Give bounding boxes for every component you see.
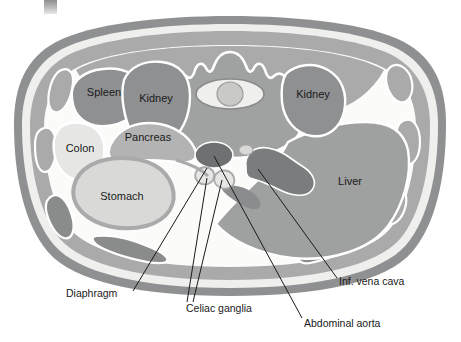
corner-artifact-mark	[44, 0, 57, 14]
figure-canvas: Spleen Kidney Colon Pancreas Stomach Kid…	[0, 0, 461, 342]
label-kidney-right: Kidney	[296, 88, 330, 100]
small-vessel-node	[239, 145, 253, 155]
label-celiac-ganglia: Celiac ganglia	[186, 302, 252, 314]
kidney-right-organ	[282, 65, 346, 136]
celiac-ganglion-right	[214, 171, 234, 189]
label-pancreas: Pancreas	[125, 131, 172, 143]
label-diaphragm: Diaphragm	[66, 287, 118, 299]
label-inf-vena-cava: Inf. vena cava	[339, 275, 405, 287]
spinal-cord	[217, 82, 243, 106]
label-liver: Liver	[338, 175, 362, 187]
abdominal-cross-section-diagram: Spleen Kidney Colon Pancreas Stomach Kid…	[0, 0, 461, 342]
label-spleen: Spleen	[87, 86, 121, 98]
label-stomach: Stomach	[100, 190, 143, 202]
label-abdominal-aorta: Abdominal aorta	[304, 317, 381, 329]
abdominal-aorta-vessel	[195, 142, 233, 168]
label-kidney-left: Kidney	[139, 92, 173, 104]
label-colon: Colon	[66, 142, 95, 154]
